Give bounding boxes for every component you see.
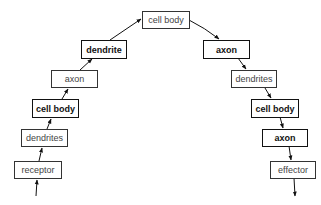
node-dendrite: dendrite bbox=[81, 40, 127, 59]
node-label: dendrite bbox=[86, 45, 122, 55]
node-label: receptor bbox=[21, 165, 54, 175]
node-label: axon bbox=[216, 45, 237, 55]
node-label: effector bbox=[278, 165, 308, 175]
node-effector: effector bbox=[270, 161, 316, 179]
node-axon-right-1: axon bbox=[203, 40, 250, 59]
node-cell-body-left: cell body bbox=[32, 99, 79, 118]
node-axon-left: axon bbox=[51, 70, 98, 88]
node-label: cell body bbox=[255, 104, 294, 114]
node-dendrites-right: dendrites bbox=[231, 70, 277, 88]
node-label: dendrites bbox=[26, 133, 63, 143]
node-label: axon bbox=[65, 74, 85, 84]
node-dendrites-left: dendrites bbox=[21, 129, 68, 147]
reflex-arc-diagram: receptor dendrites cell body axon dendri… bbox=[0, 0, 321, 205]
node-label: cell body bbox=[148, 15, 184, 25]
node-receptor: receptor bbox=[14, 161, 62, 179]
node-label: cell body bbox=[36, 104, 75, 114]
node-label: axon bbox=[274, 133, 295, 143]
node-cell-body-right: cell body bbox=[251, 99, 299, 118]
node-cell-body-top: cell body bbox=[142, 11, 190, 29]
node-axon-right-2: axon bbox=[262, 129, 308, 147]
node-label: dendrites bbox=[235, 74, 272, 84]
